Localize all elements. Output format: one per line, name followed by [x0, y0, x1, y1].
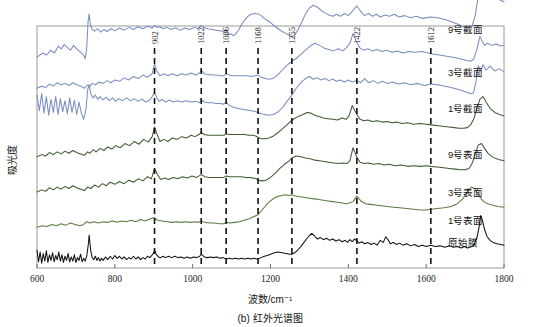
x-tick-label-800: 800 [108, 274, 123, 284]
x-tick-label-600: 600 [30, 274, 45, 284]
x-axis-title: 波数/cm⁻¹ [248, 293, 293, 305]
peak-label-1086: 1086 [221, 27, 231, 44]
series-label-s9jm: 9号截面 [448, 24, 483, 35]
x-tick-label-1400: 1400 [339, 274, 358, 284]
figure-caption: (b) 红外光谱图 [238, 312, 303, 324]
x-tick-label-1800: 1800 [495, 274, 514, 284]
series-label-s9bm: 9号表面 [448, 149, 483, 160]
x-tick-label-1000: 1000 [183, 274, 202, 284]
peak-label-1255: 1255 [287, 27, 297, 44]
series-label-s1jm: 1号截面 [448, 103, 483, 114]
peak-label-1022: 1022 [196, 27, 206, 44]
peak-label-1612: 1612 [426, 27, 436, 44]
y-axis-title: 吸光度 [6, 145, 18, 175]
series-label-sysm: 原始膜 [448, 237, 478, 248]
peak-label-1422: 1422 [352, 27, 362, 44]
peak-label-902: 902 [150, 31, 160, 44]
chart-canvas: 60080010001200140016001800 9021022108611… [0, 0, 539, 327]
series-label-s3jm: 3号截面 [448, 67, 483, 78]
series-label-s3bm: 3号表面 [448, 187, 483, 198]
ftir-spectra-figure: 60080010001200140016001800 9021022108611… [0, 0, 539, 327]
peak-label-1168: 1168 [253, 27, 263, 44]
series-label-s1bm: 1号表面 [448, 215, 483, 226]
x-tick-label-1200: 1200 [261, 274, 280, 284]
x-tick-label-1600: 1600 [417, 274, 436, 284]
